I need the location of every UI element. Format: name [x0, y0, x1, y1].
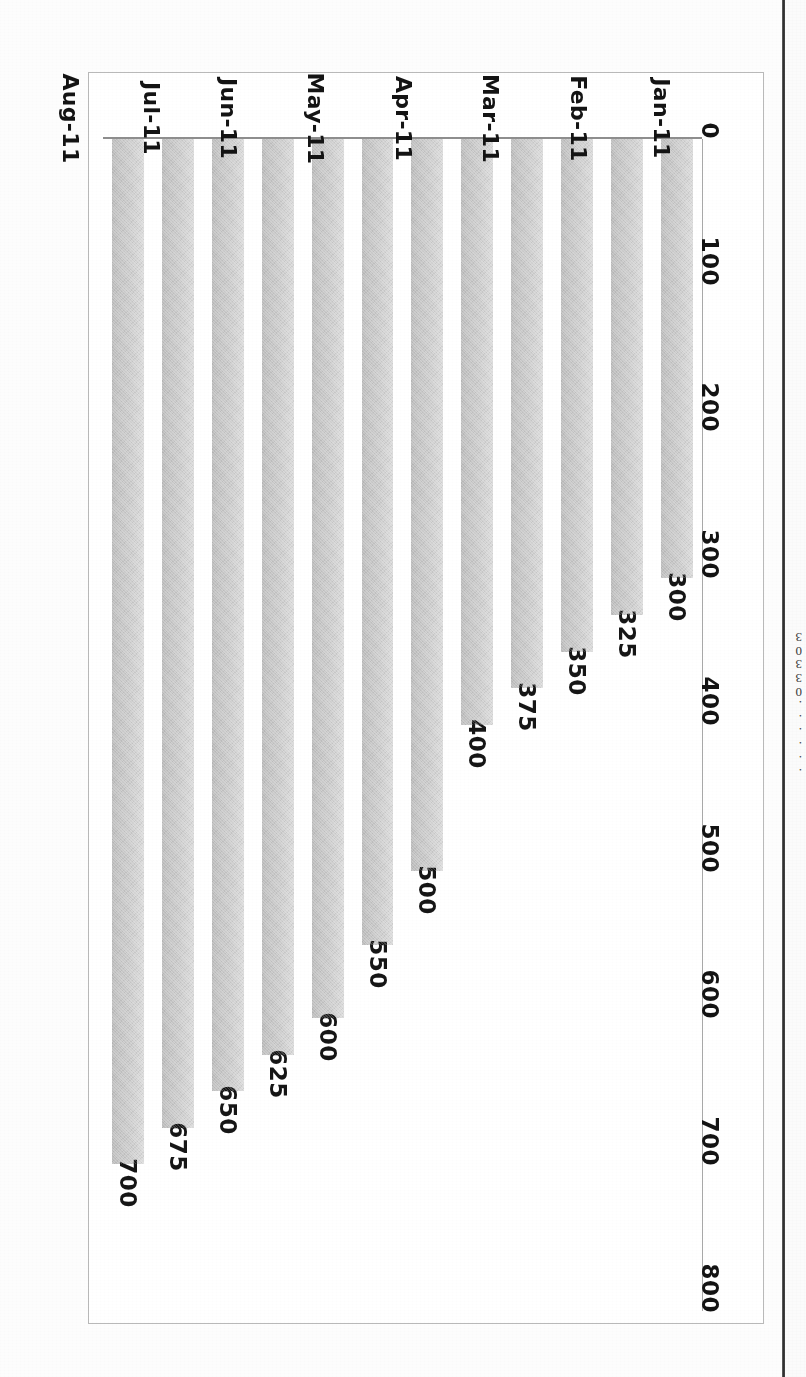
bar[interactable]: 375: [511, 139, 543, 688]
bar-value-label: 675: [165, 1122, 191, 1172]
clipped-text-fragment: 3: [800, 630, 802, 644]
plot-area: 300325350375400500550600625650675700: [103, 137, 702, 1311]
category-tick-label: Sep-11: [0, 73, 25, 137]
bar[interactable]: 675: [162, 139, 194, 1128]
clipped-text-fragment: .: [800, 753, 802, 767]
value-axis: 0100200300400500600700800: [702, 137, 763, 1311]
category-tick-text: Mar-11: [478, 74, 503, 163]
clipped-text-fragment: .: [800, 712, 802, 726]
category-tick-text: Aug-11: [58, 74, 83, 164]
category-tick-label: Aug-11: [25, 73, 115, 137]
bar-value-label: 400: [464, 719, 490, 769]
bar[interactable]: 500: [411, 139, 443, 872]
category-tick-text: Apr-11: [391, 76, 416, 161]
bar[interactable]: 550: [362, 139, 394, 945]
clipped-text-fragment: 0: [800, 685, 802, 699]
chart-frame: 0100200300400500600700800 30032535037540…: [88, 72, 764, 1324]
category-tick-label: Jun-11: [188, 73, 269, 137]
bar[interactable]: 325: [611, 139, 643, 615]
category-tick-label: May-11: [269, 73, 361, 137]
bar-slot: 625: [253, 139, 303, 1311]
bar[interactable]: 625: [262, 139, 294, 1055]
bar[interactable]: 300: [661, 139, 693, 579]
bars-row: 300325350375400500550600625650675700: [103, 139, 702, 1311]
rotated-chart-container: 0100200300400500600700800 30032535037540…: [0, 0, 806, 1377]
bar[interactable]: 700: [112, 139, 144, 1165]
category-tick-label: Apr-11: [361, 73, 446, 137]
category-tick-text: Feb-11: [566, 75, 591, 161]
bar-slot: 400: [452, 139, 502, 1311]
page-gutter-rule: [782, 0, 785, 1377]
clipped-neighbour-text: 30330......: [788, 630, 804, 1100]
category-axis-labels: Jan-11Feb-11Mar-11Apr-11May-11Jun-11Jul-…: [103, 73, 702, 137]
bar-value-label: 700: [115, 1159, 141, 1209]
category-tick-text: May-11: [303, 73, 328, 165]
clipped-text-fragment: .: [800, 739, 802, 753]
clipped-text-fragment: .: [800, 725, 802, 739]
bar-value-label: 350: [564, 646, 590, 696]
bar-slot: 550: [353, 139, 403, 1311]
category-tick-label: Jul-11: [115, 73, 188, 137]
clipped-text-fragment: 3: [800, 671, 802, 685]
bar-slot: 350: [552, 139, 602, 1311]
category-tick-text: Jun-11: [216, 78, 241, 159]
bar-value-label: 300: [664, 573, 690, 623]
bar[interactable]: 350: [561, 139, 593, 652]
bar-slot: 675: [153, 139, 203, 1311]
category-tick-label: Feb-11: [535, 73, 621, 137]
bar-value-label: 550: [365, 939, 391, 989]
bar-slot: 500: [402, 139, 452, 1311]
bar-value-label: 325: [614, 609, 640, 659]
clipped-text-fragment: .: [800, 698, 802, 712]
bar[interactable]: 650: [212, 139, 244, 1091]
clipped-text-fragment: 0: [800, 644, 802, 658]
bar-value-label: 375: [514, 683, 540, 733]
category-tick-label: Jan-11: [622, 73, 702, 137]
clipped-text-fragment: 3: [800, 657, 802, 671]
bar-value-label: 500: [414, 866, 440, 916]
clipped-text-fragment: .: [800, 766, 802, 780]
bar-slot: 375: [502, 139, 552, 1311]
category-tick-text: Jul-11: [139, 82, 164, 155]
category-tick-label: Mar-11: [446, 73, 535, 137]
bar-value-label: 625: [265, 1049, 291, 1099]
scanned-page: 0100200300400500600700800 30032535037540…: [0, 0, 806, 1377]
bar-value-label: 600: [315, 1012, 341, 1062]
bar[interactable]: 600: [312, 139, 344, 1018]
bar[interactable]: 400: [461, 139, 493, 725]
bar-slot: 600: [303, 139, 353, 1311]
bar-slot: 325: [602, 139, 652, 1311]
bar-slot: 700: [103, 139, 153, 1311]
bar-value-label: 650: [215, 1085, 241, 1135]
bar-slot: 650: [203, 139, 253, 1311]
category-tick-text: Jan-11: [649, 78, 674, 158]
bar-slot: 300: [652, 139, 702, 1311]
